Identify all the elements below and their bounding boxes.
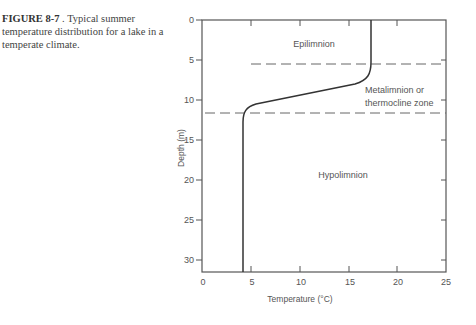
x-tick-0: 0 <box>200 277 205 287</box>
y-axis-ticks <box>196 20 446 260</box>
y-tick-5: 5 <box>189 55 194 65</box>
hypolimnion-label: Hypolimnion <box>318 170 368 180</box>
plot-frame <box>202 20 446 272</box>
y-tick-30: 30 <box>184 255 194 265</box>
x-tick-15: 15 <box>345 277 355 287</box>
y-tick-0: 0 <box>189 15 194 25</box>
x-tick-10: 10 <box>296 277 306 287</box>
y-axis-label: Depth (m) <box>176 129 186 167</box>
x-tick-25: 25 <box>441 277 451 287</box>
metalimnion-label-line1: Metalimnion or <box>365 85 424 95</box>
x-axis-label: Temperature (°C) <box>267 294 332 304</box>
y-tick-25: 25 <box>184 215 194 225</box>
temperature-profile-line <box>243 20 371 272</box>
metalimnion-label-line2: thermocline zone <box>365 98 434 108</box>
x-tick-20: 20 <box>393 277 403 287</box>
y-tick-20: 20 <box>184 175 194 185</box>
epilimnion-label: Epilimnion <box>293 39 335 49</box>
x-tick-labels: 0 5 10 15 20 25 <box>200 277 451 287</box>
x-tick-5: 5 <box>249 277 254 287</box>
y-tick-10: 10 <box>184 95 194 105</box>
x-axis-ticks <box>251 20 397 272</box>
temperature-depth-chart: 0 5 10 15 20 25 30 0 5 10 15 20 25 Tempe… <box>0 0 476 325</box>
